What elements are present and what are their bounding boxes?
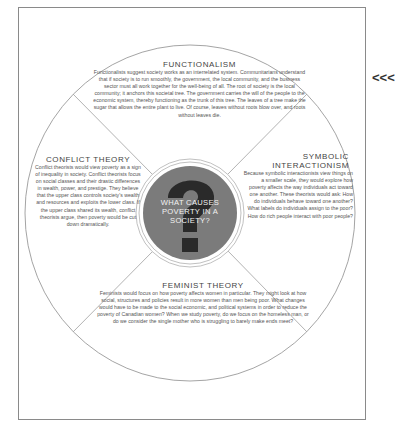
section-conflict-theory: CONFLICT THEORY Conflict theorists would… (34, 155, 142, 228)
section-body: Functionalists suggest society works as … (92, 69, 307, 119)
pointer-arrows: <<< (372, 70, 395, 85)
section-feminist-theory: FEMINIST THEORY Feminists would focus on… (96, 281, 310, 325)
section-body: Because symbolic interactionists view th… (243, 170, 353, 220)
section-title: FEMINIST THEORY (96, 281, 310, 290)
section-title: CONFLICT THEORY (34, 155, 142, 164)
center-question: WHAT CAUSES POVERTY IN A SOCIETY? (150, 198, 230, 226)
section-functionalism: FUNCTIONALISM Functionalists suggest soc… (92, 60, 307, 119)
section-title: FUNCTIONALISM (92, 60, 307, 69)
section-body: Feminists would focus on how poverty aff… (96, 290, 310, 325)
section-title-line1: SYMBOLIC (243, 152, 353, 161)
section-symbolic-interactionism: SYMBOLIC INTERACTIONISM Because symbolic… (243, 152, 353, 220)
section-body: Conflict theorists would view poverty as… (34, 164, 142, 228)
section-title-line2: INTERACTIONISM (243, 161, 353, 170)
